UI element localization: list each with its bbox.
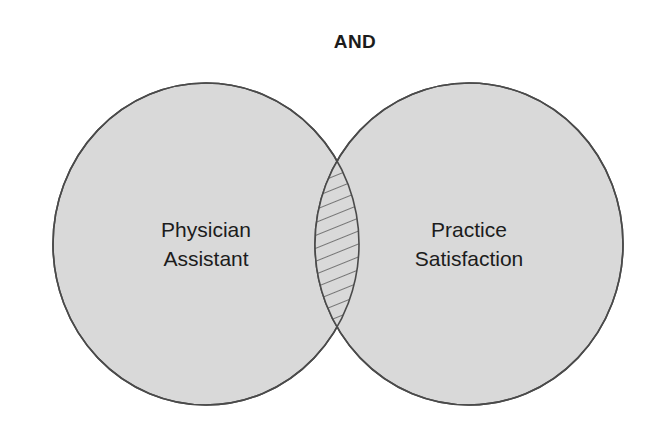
left-set-label-line1: Physician	[161, 218, 251, 241]
diagram-title: AND	[334, 31, 377, 52]
right-set-circle[interactable]	[315, 83, 623, 405]
left-set-circle[interactable]	[53, 83, 359, 405]
venn-diagram-canvas: AND Physician Assistant Practice Satisfa…	[0, 0, 664, 433]
right-set-label-line2: Satisfaction	[415, 247, 524, 270]
right-set-label-line1: Practice	[431, 218, 507, 241]
venn-diagram-figure: AND Physician Assistant Practice Satisfa…	[0, 0, 664, 433]
left-set-label-line2: Assistant	[163, 247, 248, 270]
